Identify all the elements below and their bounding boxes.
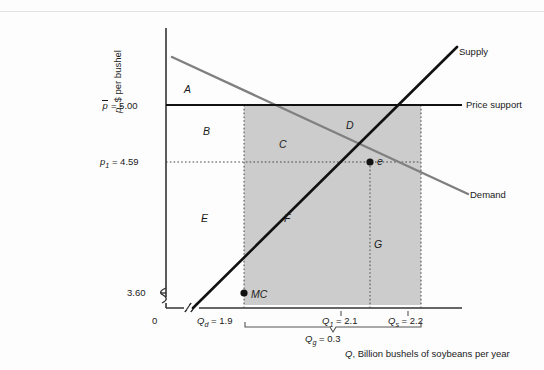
demand-leader-line <box>440 181 468 194</box>
region-label-c: C <box>279 139 287 150</box>
region-label-g: G <box>374 239 382 250</box>
marginal-cost-point-label: MC <box>251 289 267 300</box>
region-label-b: B <box>203 126 210 137</box>
x-tick-label-qd: Qd = 1.9 <box>197 316 232 328</box>
y-tick-label-p1: p1 = 4.59 <box>100 157 139 169</box>
demand-curve-label: Demand <box>470 190 506 200</box>
x-annotation-qg: Qg = 0.3 <box>305 334 340 346</box>
y-tick-label-360: 3.60 <box>127 288 146 298</box>
region-label-a: A <box>184 84 191 95</box>
marginal-cost-point-marker <box>240 289 247 296</box>
y-tick-label-price-support: p = 5.00 <box>102 100 138 111</box>
region-label-e: E <box>201 213 208 224</box>
x-tick-label-qs: Qs = 2.2 <box>388 316 423 328</box>
region-label-d: D <box>346 120 354 131</box>
price-support-label: Price support <box>466 100 522 110</box>
supply-leader-line <box>449 47 457 55</box>
region-label-f: F <box>284 213 290 224</box>
x-tick-label-q1: Q1 = 2.1 <box>322 316 357 328</box>
equilibrium-point-marker <box>366 158 373 165</box>
equilibrium-point-label: e <box>377 156 383 167</box>
x-axis-title: Q, Billion bushels of soybeans per year <box>345 349 510 359</box>
supply-curve-label: Supply <box>459 47 488 57</box>
shaded-region <box>244 105 421 305</box>
origin-label: 0 <box>152 316 157 326</box>
